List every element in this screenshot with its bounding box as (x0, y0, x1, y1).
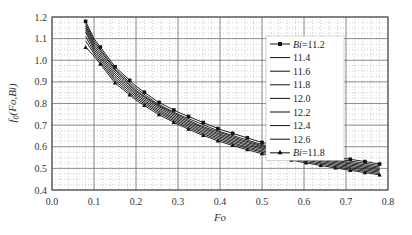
x-tick-label: 0.5 (256, 196, 269, 207)
chart: 0.00.10.20.30.40.50.60.70.80.40.50.60.70… (0, 0, 412, 235)
legend-item: 11.6 (293, 66, 310, 77)
legend-item: Bi=11.2 (293, 39, 325, 50)
y-tick-label: 1.0 (35, 55, 48, 66)
x-tick-label: 0.8 (382, 196, 395, 207)
y-tick-label: 1.1 (35, 33, 48, 44)
y-axis-label: f0(Fo,Bi) (6, 83, 21, 122)
x-tick-label: 0.4 (214, 196, 227, 207)
y-tick-label: 0.8 (35, 98, 48, 109)
x-tick-label: 0.7 (340, 196, 353, 207)
x-tick-label: 0.3 (172, 196, 185, 207)
x-tick-label: 0.2 (130, 196, 143, 207)
legend-item: 12.2 (293, 107, 311, 118)
y-tick-label: 0.7 (35, 120, 48, 131)
legend: Bi=11.211.411.611.812.012.212.412.6Bi=11… (266, 36, 344, 160)
x-tick-label: 0.6 (298, 196, 311, 207)
legend-item: 11.4 (293, 52, 310, 63)
legend-item: 12.4 (293, 120, 311, 131)
legend-item: 12.0 (293, 93, 311, 104)
y-tick-label: 1.2 (35, 12, 48, 23)
y-tick-label: 0.9 (35, 76, 48, 87)
y-tick-label: 0.4 (35, 185, 48, 196)
x-tick-label: 0.1 (88, 196, 101, 207)
y-tick-label: 0.6 (35, 141, 48, 152)
x-axis-label: Fo (213, 211, 227, 223)
legend-item: Bi=11.8 (293, 147, 325, 158)
legend-item: 11.8 (293, 79, 310, 90)
legend-item: 12.6 (293, 134, 311, 145)
y-tick-label: 0.5 (35, 163, 48, 174)
x-tick-label: 0.0 (46, 196, 59, 207)
